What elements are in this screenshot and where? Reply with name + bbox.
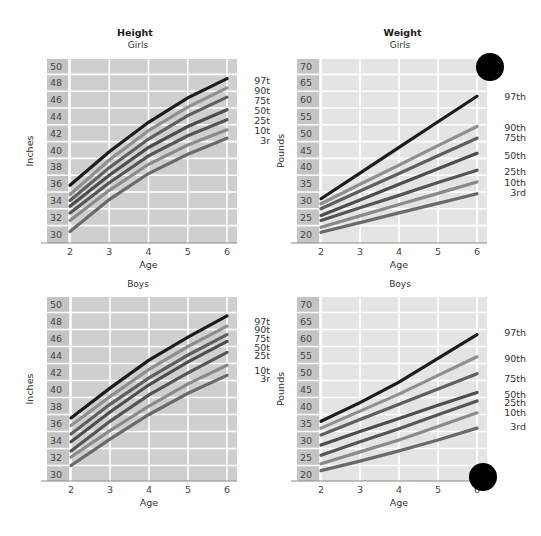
y-tick-label: 50 [50, 61, 62, 72]
legend-label-3rd: 3rd [260, 135, 270, 146]
y-tick-label: 60 [300, 94, 312, 105]
boys-height-chart: Boys 303234363840424446485023456AgeInche… [0, 270, 270, 536]
boys-height-plot: 303234363840424446485023456AgeInches97th… [0, 270, 270, 536]
x-tick-label: 2 [67, 246, 73, 257]
y-tick-label: 30 [300, 195, 312, 206]
y-tick-label: 25 [300, 212, 312, 223]
legend-label-97th: 97th [504, 327, 526, 338]
legend-label-90th: 90th [504, 353, 526, 364]
y-tick-label: 30 [300, 435, 312, 446]
y-axis-label: Inches [24, 374, 35, 405]
y-tick-label: 55 [300, 350, 312, 361]
y-tick-label: 60 [300, 333, 312, 344]
y-tick-label: 38 [50, 161, 62, 172]
x-axis-label: Age [139, 259, 158, 270]
y-tick-label: 20 [300, 229, 312, 240]
girls-height-chart: Girls 303234363840424446485023456AgeInch… [0, 0, 270, 270]
legend-label-25th: 25th [254, 350, 270, 361]
y-tick-label: 44 [50, 350, 62, 361]
y-tick-label: 44 [50, 111, 62, 122]
x-axis-label: Age [140, 497, 159, 508]
y-axis-label: Pounds [275, 134, 286, 168]
y-tick-label: 38 [50, 401, 62, 412]
x-tick-label: 4 [145, 246, 151, 257]
y-tick-label: 46 [50, 94, 62, 105]
x-tick-label: 3 [107, 484, 113, 495]
y-tick-label: 65 [300, 316, 312, 327]
y-tick-label: 34 [50, 435, 62, 446]
y-tick-label: 36 [50, 178, 62, 189]
y-tick-label: 40 [50, 145, 62, 156]
x-tick-label: 3 [357, 484, 363, 495]
legend-label-3rd: 3rd [260, 373, 270, 384]
y-tick-label: 25 [300, 452, 312, 463]
y-tick-label: 40 [50, 384, 62, 395]
y-tick-label: 32 [50, 212, 62, 223]
y-axis-label: Inches [24, 136, 35, 167]
y-tick-label: 30 [50, 229, 62, 240]
y-tick-label: 48 [50, 316, 62, 327]
x-tick-label: 5 [435, 246, 441, 257]
binder-hole-decoration [476, 53, 504, 81]
y-tick-label: 46 [50, 333, 62, 344]
y-tick-label: 50 [50, 299, 62, 310]
boys-weight-chart: Boys 202530354045505560657023456AgePound… [270, 270, 541, 536]
x-tick-label: 2 [68, 484, 74, 495]
y-tick-label: 48 [50, 77, 62, 88]
legend-label-75th: 75th [504, 373, 526, 384]
chart-subtitle: Girls [28, 40, 248, 50]
plot-area [321, 59, 487, 243]
y-tick-label: 42 [50, 128, 62, 139]
y-tick-label: 50 [300, 128, 312, 139]
y-tick-label: 32 [50, 452, 62, 463]
legend-label-25th: 25th [504, 166, 526, 177]
x-tick-label: 4 [146, 484, 152, 495]
binder-hole-decoration [469, 463, 497, 491]
boys-weight-plot: 202530354045505560657023456AgePounds97th… [270, 270, 541, 536]
x-tick-label: 2 [318, 484, 324, 495]
legend-label-3rd: 3rd [510, 187, 526, 198]
x-tick-label: 6 [224, 484, 230, 495]
y-tick-label: 55 [300, 111, 312, 122]
x-tick-label: 6 [474, 246, 480, 257]
y-tick-label: 34 [50, 195, 62, 206]
y-tick-label: 35 [300, 418, 312, 429]
x-tick-label: 5 [185, 484, 191, 495]
y-tick-label: 20 [300, 469, 312, 480]
y-tick-label: 42 [50, 367, 62, 378]
y-tick-label: 45 [300, 384, 312, 395]
x-tick-label: 4 [396, 484, 402, 495]
chart-subtitle: Girls [290, 40, 510, 50]
y-tick-label: 70 [300, 61, 312, 72]
legend-label-50th: 50th [504, 150, 526, 161]
y-tick-label: 70 [300, 299, 312, 310]
x-tick-label: 6 [224, 246, 230, 257]
x-tick-label: 3 [357, 246, 363, 257]
x-axis-label: Age [390, 497, 409, 508]
x-tick-label: 3 [106, 246, 112, 257]
y-tick-label: 36 [50, 418, 62, 429]
x-tick-label: 2 [318, 246, 324, 257]
plot-area [321, 297, 487, 481]
x-axis-label: Age [390, 259, 409, 270]
chart-subtitle: Boys [28, 279, 248, 289]
y-tick-label: 65 [300, 77, 312, 88]
y-tick-label: 40 [300, 401, 312, 412]
y-axis-label: Pounds [275, 372, 286, 406]
y-tick-label: 45 [300, 145, 312, 156]
x-tick-label: 4 [396, 246, 402, 257]
y-tick-label: 35 [300, 178, 312, 189]
y-tick-label: 50 [300, 367, 312, 378]
y-tick-label: 30 [50, 469, 62, 480]
x-tick-label: 5 [185, 246, 191, 257]
girls-weight-chart: Girls 202530354045505560657023456AgePoun… [270, 0, 541, 270]
legend-label-3rd: 3rd [510, 421, 526, 432]
legend-label-10th: 10th [504, 407, 526, 418]
x-tick-label: 5 [435, 484, 441, 495]
y-tick-label: 40 [300, 161, 312, 172]
legend-label-75th: 75th [504, 132, 526, 143]
legend-label-97th: 97th [504, 91, 526, 102]
chart-subtitle: Boys [290, 279, 510, 289]
